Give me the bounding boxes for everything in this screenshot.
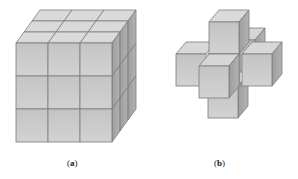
- caption-b-close: ): [222, 158, 225, 168]
- right-cube: [242, 42, 282, 86]
- caption-a: (a): [67, 158, 78, 168]
- figure-canvas: [0, 0, 298, 179]
- top-cube: [209, 10, 249, 54]
- front-face: [16, 43, 112, 142]
- caption-b: (b): [214, 158, 225, 168]
- cube-cross: [176, 10, 282, 118]
- cube-3x3x3: [16, 10, 136, 142]
- caption-a-close: ): [75, 158, 78, 168]
- front-cube: [199, 54, 239, 98]
